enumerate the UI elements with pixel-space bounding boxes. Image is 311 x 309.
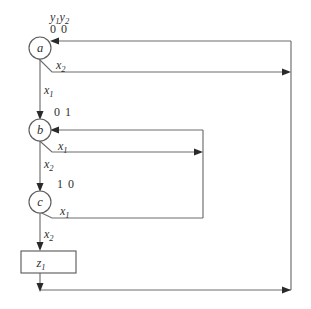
arrowhead-into-a (50, 38, 59, 45)
edge-label-a-to-b: x1 (43, 83, 54, 99)
arrowhead-c-to-output (37, 242, 44, 251)
node-b-state-bits: 0 1 (54, 105, 72, 119)
arrowhead-output-to-bottom (37, 283, 44, 292)
arrowhead-a-x2 (282, 69, 291, 76)
output-box-z1[interactable] (21, 251, 76, 273)
node-a-label: a (37, 41, 43, 55)
arrowhead-bottom-right (282, 287, 291, 294)
edge-label-c-to-output: x2 (43, 227, 54, 243)
node-c-label: c (37, 195, 43, 209)
edge-label-b-to-c: x2 (43, 157, 54, 173)
edge-label-b-x1: x1 (57, 139, 68, 155)
node-c-state-bits: 1 0 (57, 177, 75, 191)
state-diagram-container: a b c z1 y1y2 0 0 0 1 1 0 x2 x1 x1 x2 x1… (0, 0, 311, 309)
edge-label-b-to-c-sub: 2 (49, 163, 54, 173)
edge-label-c-to-output-sub: 2 (49, 233, 54, 243)
edge-a-x2-line (38, 58, 287, 73)
edge-label-c-x1-sub: 1 (65, 210, 69, 220)
edge-label-a-x2: x2 (55, 58, 66, 74)
node-a-state-bits: 0 0 (50, 22, 68, 36)
output-box-label-sub: 1 (41, 262, 45, 272)
node-b-label: b (37, 123, 43, 137)
edge-label-c-x1: x1 (59, 204, 70, 220)
edge-label-a-to-b-sub: 1 (49, 89, 53, 99)
state-transition-diagram: a b c z1 y1y2 0 0 0 1 1 0 x2 x1 x1 x2 x1… (0, 0, 311, 309)
arrowhead-b-x1 (194, 149, 203, 156)
edge-label-b-x1-sub: 1 (63, 145, 67, 155)
